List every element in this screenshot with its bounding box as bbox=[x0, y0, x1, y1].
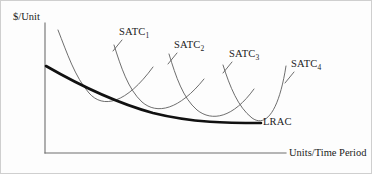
satc-label-subscript-2: 2 bbox=[200, 44, 204, 53]
lrac-curve-label: LRAC bbox=[263, 117, 292, 128]
leader-line-satc-3 bbox=[223, 62, 232, 73]
satc-label-text-3: SATC bbox=[229, 48, 255, 59]
satc-label-text-1: SATC bbox=[119, 26, 145, 37]
satc-label-text-2: SATC bbox=[174, 39, 200, 50]
lrac-curve bbox=[46, 66, 261, 123]
satc-label-subscript-1: 1 bbox=[145, 31, 149, 40]
satc-curve-label-4: SATC4 bbox=[291, 59, 321, 70]
x-axis-label: Units/Time Period bbox=[289, 148, 367, 159]
satc-label-text-4: SATC bbox=[291, 58, 317, 69]
satc-curve-4 bbox=[223, 65, 286, 121]
satc-curve-label-1: SATC1 bbox=[119, 27, 149, 38]
satc-label-subscript-4: 4 bbox=[317, 63, 321, 72]
satc-curve-label-3: SATC3 bbox=[229, 49, 259, 60]
leader-line-satc-4 bbox=[285, 72, 294, 83]
y-axis-label: $/Unit bbox=[13, 12, 40, 23]
satc-label-subscript-3: 3 bbox=[255, 53, 259, 62]
satc-curve-label-2: SATC2 bbox=[174, 40, 204, 51]
cost-curve-figure: $/Unit Units/Time Period LRAC SATC1 SATC… bbox=[0, 0, 372, 174]
satc-curve-1 bbox=[58, 30, 153, 102]
satc-curve-2 bbox=[114, 45, 204, 109]
